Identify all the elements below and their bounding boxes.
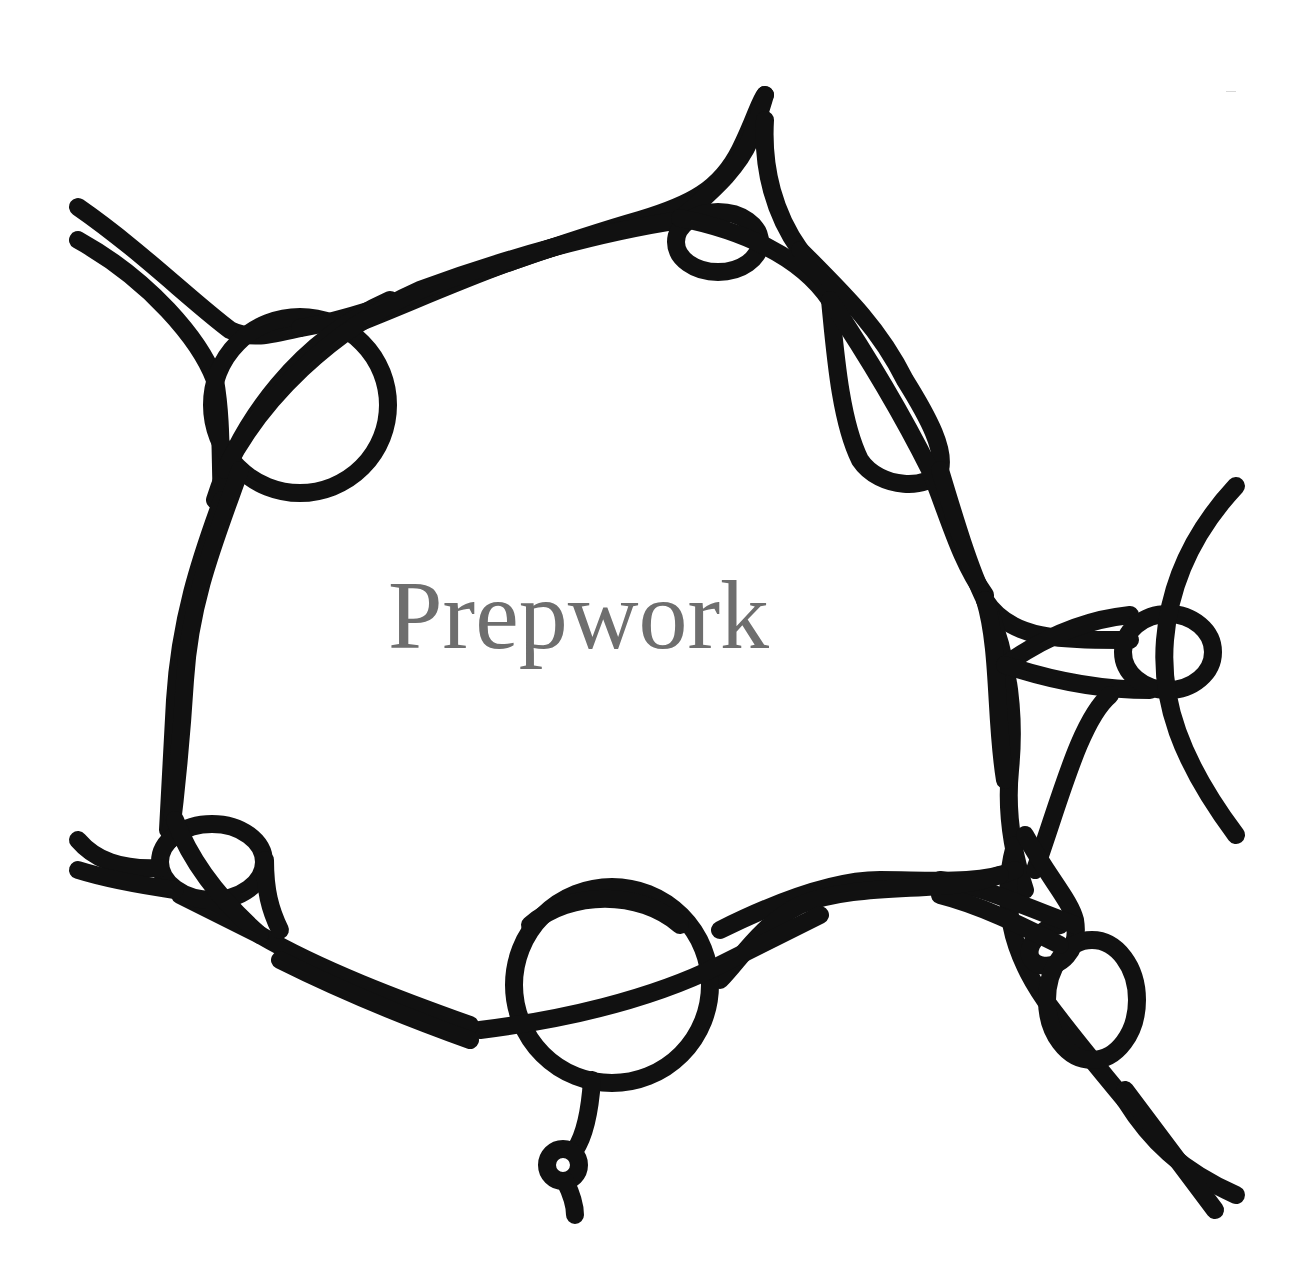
page-title: Prepwork: [388, 555, 818, 675]
chapter-title-page: Prepwork: [0, 0, 1314, 1274]
corner-mark: [1226, 91, 1236, 92]
